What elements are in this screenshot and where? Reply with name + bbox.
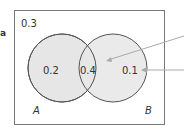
outside-value: 0.3 xyxy=(21,18,37,29)
b-only-value: 0.1 xyxy=(122,65,138,76)
intersection-value: 0.4 xyxy=(80,65,96,76)
venn-diagram: 0.3 0.2 0.4 0.1 A B xyxy=(0,0,184,131)
set-b-label: B xyxy=(145,105,152,116)
set-a-label: A xyxy=(32,105,40,116)
a-only-value: 0.2 xyxy=(43,65,59,76)
